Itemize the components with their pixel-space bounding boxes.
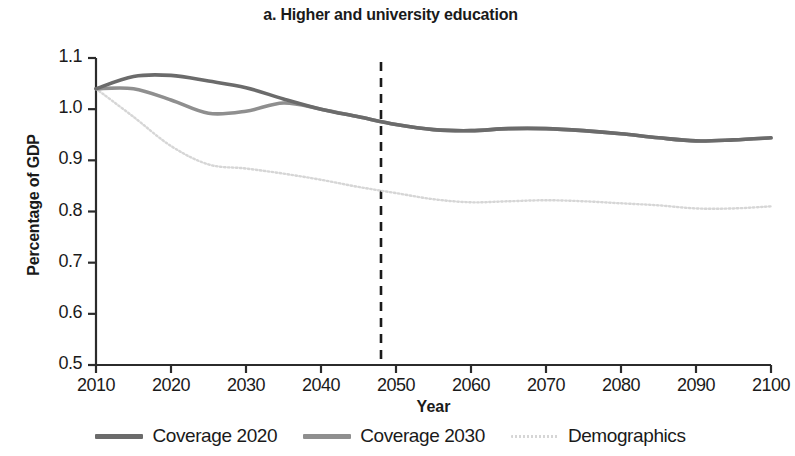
series-line [96,89,771,209]
y-tick-label: 0.5 [34,353,82,374]
y-tick-label: 0.8 [34,200,82,221]
axes [88,58,771,373]
y-tick-label: 1.0 [34,97,82,118]
data-series [96,75,771,209]
legend-label: Coverage 2030 [360,425,485,447]
series-line [96,88,771,141]
x-axis-title: Year [96,398,771,416]
x-tick-label: 2050 [361,375,431,396]
y-tick-label: 0.9 [34,148,82,169]
legend-swatch [511,435,559,438]
x-tick-label: 2020 [136,375,206,396]
chart-legend: Coverage 2020Coverage 2030Demographics [0,425,781,447]
x-tick-label: 2040 [286,375,356,396]
legend-item[interactable]: Coverage 2030 [303,425,485,447]
legend-swatch [303,434,351,439]
legend-item[interactable]: Coverage 2020 [95,425,277,447]
y-tick-label: 1.1 [34,46,82,67]
legend-label: Demographics [568,425,686,447]
x-tick-label: 2100 [736,375,795,396]
legend-label: Coverage 2020 [152,425,277,447]
x-tick-label: 2060 [436,375,506,396]
y-tick-label: 0.7 [34,251,82,272]
y-tick-label: 0.6 [34,302,82,323]
x-tick-label: 2080 [586,375,656,396]
x-tick-label: 2090 [661,375,731,396]
x-tick-label: 2010 [61,375,131,396]
x-tick-label: 2030 [211,375,281,396]
legend-swatch [95,434,143,439]
legend-item[interactable]: Demographics [511,425,686,447]
x-tick-label: 2070 [511,375,581,396]
series-line [96,75,771,141]
